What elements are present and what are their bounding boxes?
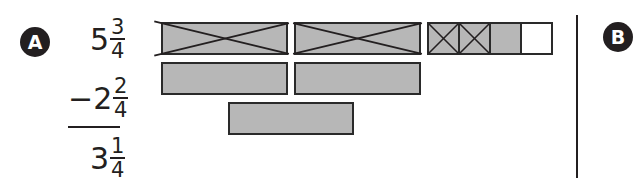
part-b-label: B [611, 26, 625, 48]
result-numerator: 1 [111, 136, 124, 156]
subtrahend-mixed-number: − 2 2 4 [68, 76, 128, 120]
row2-whole-1 [161, 62, 288, 95]
cross-out-mark-icon [429, 24, 458, 53]
minuend-numerator: 3 [111, 17, 124, 37]
section-divider [576, 15, 578, 178]
answer-rule [68, 126, 120, 128]
result-denominator: 4 [111, 160, 124, 180]
result-fraction: 1 4 [110, 136, 125, 180]
row1-whole-crossed-2 [294, 22, 421, 55]
part-a-label: A [28, 31, 43, 53]
minus-sign: − [68, 81, 93, 116]
minuend-fraction: 3 4 [110, 17, 125, 61]
row1-quarter-crossed-1 [427, 22, 460, 55]
cross-out-mark-icon [460, 24, 489, 53]
subtrahend-fraction: 2 4 [113, 76, 128, 120]
row1-quarter-crossed-2 [458, 22, 491, 55]
cross-out-mark-icon [163, 24, 286, 53]
subtrahend-numerator: 2 [114, 76, 127, 96]
result-whole: 3 [90, 141, 109, 176]
minuend-denominator: 4 [111, 41, 124, 61]
part-a-badge: A [20, 27, 50, 57]
row1-quarter-shaded [489, 22, 522, 55]
minuend-mixed-number: 5 3 4 [90, 17, 125, 61]
subtrahend-denominator: 4 [114, 100, 127, 120]
result-mixed-number: 3 1 4 [90, 136, 125, 180]
row3-whole-1 [228, 102, 354, 135]
row2-whole-2 [294, 62, 421, 95]
row1-quarter-empty [520, 22, 553, 55]
row1-whole-crossed-1 [161, 22, 288, 55]
subtrahend-whole: 2 [93, 81, 112, 116]
part-b-badge: B [603, 22, 633, 52]
cross-out-mark-icon [296, 24, 419, 53]
minuend-whole: 5 [90, 22, 109, 57]
